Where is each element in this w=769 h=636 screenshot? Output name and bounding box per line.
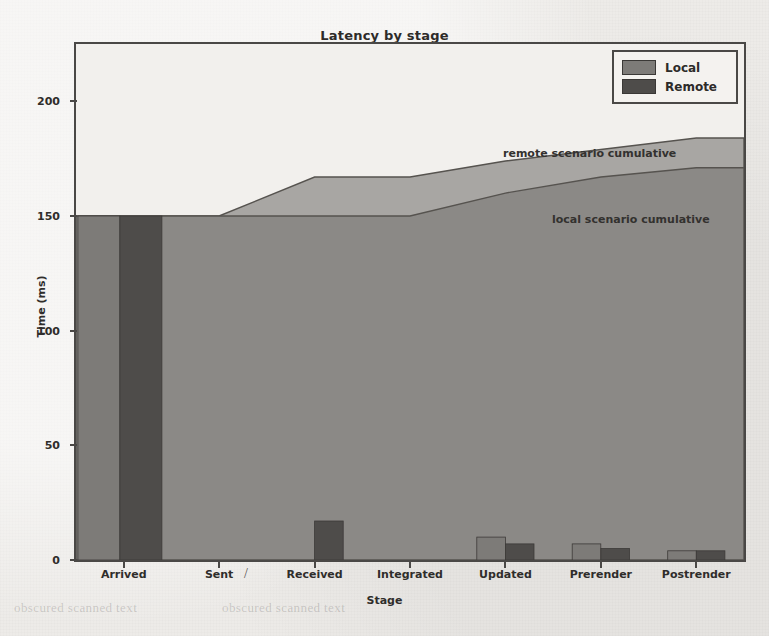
- bar-local-prerender: [572, 544, 601, 560]
- legend-swatch-remote-icon: [622, 79, 656, 94]
- legend-entry-local: Local: [622, 58, 728, 77]
- y-tick-label-0: 0: [14, 554, 60, 567]
- y-tick-label-100: 100: [14, 324, 60, 337]
- legend-label-remote: Remote: [665, 80, 717, 94]
- x-tick-label-postrender: Postrender: [662, 568, 731, 581]
- bar-remote-updated: [505, 544, 534, 560]
- y-tick-mark-100: [70, 330, 77, 332]
- bar-remote-received: [315, 521, 344, 560]
- area-local: [76, 168, 744, 560]
- y-tick-mark-50: [70, 444, 77, 446]
- cumulative-area-layer: [76, 138, 744, 560]
- x-tick-mark-prerender: [600, 562, 602, 568]
- x-tick-label-integrated: Integrated: [377, 568, 443, 581]
- bar-local-postrender: [668, 551, 697, 560]
- bar-remote-prerender: [601, 549, 630, 561]
- legend-entry-remote: Remote: [622, 77, 728, 96]
- plot-area: [74, 42, 746, 562]
- y-tick-label-150: 150: [14, 210, 60, 223]
- chart-figure: Latency by stage Time (ms) remote scenar…: [0, 0, 769, 636]
- y-tick-mark-150: [70, 215, 77, 217]
- y-tick-mark-0: [70, 559, 77, 561]
- annotation-local-cumulative: local scenario cumulative: [552, 213, 710, 226]
- chart-title: Latency by stage: [0, 28, 769, 43]
- x-tick-mark-arrived: [123, 562, 125, 568]
- chart-legend: Local Remote: [612, 50, 738, 104]
- bar-remote-postrender: [696, 551, 725, 560]
- x-tick-label-updated: Updated: [479, 568, 532, 581]
- x-tick-label-sent: Sent: [205, 568, 233, 581]
- bar-local-arrived: [78, 216, 120, 560]
- x-tick-mark-updated: [504, 562, 506, 568]
- y-tick-mark-200: [70, 100, 77, 102]
- y-axis-label: Time (ms): [35, 252, 48, 362]
- x-axis-label: Stage: [0, 594, 769, 607]
- bar-local-updated: [477, 537, 506, 560]
- x-tick-mark-postrender: [695, 562, 697, 568]
- x-tick-label-prerender: Prerender: [570, 568, 632, 581]
- plot-svg: [76, 44, 744, 560]
- x-tick-mark-received: [314, 562, 316, 568]
- x-tick-mark-sent: [218, 562, 220, 568]
- scan-artifact-slash: /: [244, 566, 248, 582]
- y-tick-label-50: 50: [14, 439, 60, 452]
- x-tick-mark-integrated: [409, 562, 411, 568]
- legend-swatch-local-icon: [622, 60, 656, 75]
- bar-remote-arrived: [120, 216, 162, 560]
- x-tick-label-received: Received: [286, 568, 342, 581]
- y-tick-label-200: 200: [14, 95, 60, 108]
- annotation-remote-cumulative: remote scenario cumulative: [503, 147, 676, 160]
- legend-label-local: Local: [665, 61, 700, 75]
- x-tick-label-arrived: Arrived: [101, 568, 147, 581]
